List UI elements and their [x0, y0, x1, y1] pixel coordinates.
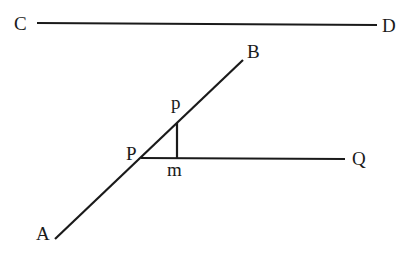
label-C: C: [14, 13, 27, 34]
label-D: D: [382, 15, 396, 36]
geometry-diagram: C D B p P m Q A: [0, 0, 415, 261]
label-P: P: [126, 143, 137, 164]
label-p: p: [171, 92, 181, 113]
line-AB: [55, 60, 243, 239]
label-m: m: [167, 159, 182, 180]
label-B: B: [247, 41, 260, 62]
label-A: A: [36, 223, 50, 244]
line-CD: [37, 23, 377, 25]
label-Q: Q: [352, 148, 366, 169]
